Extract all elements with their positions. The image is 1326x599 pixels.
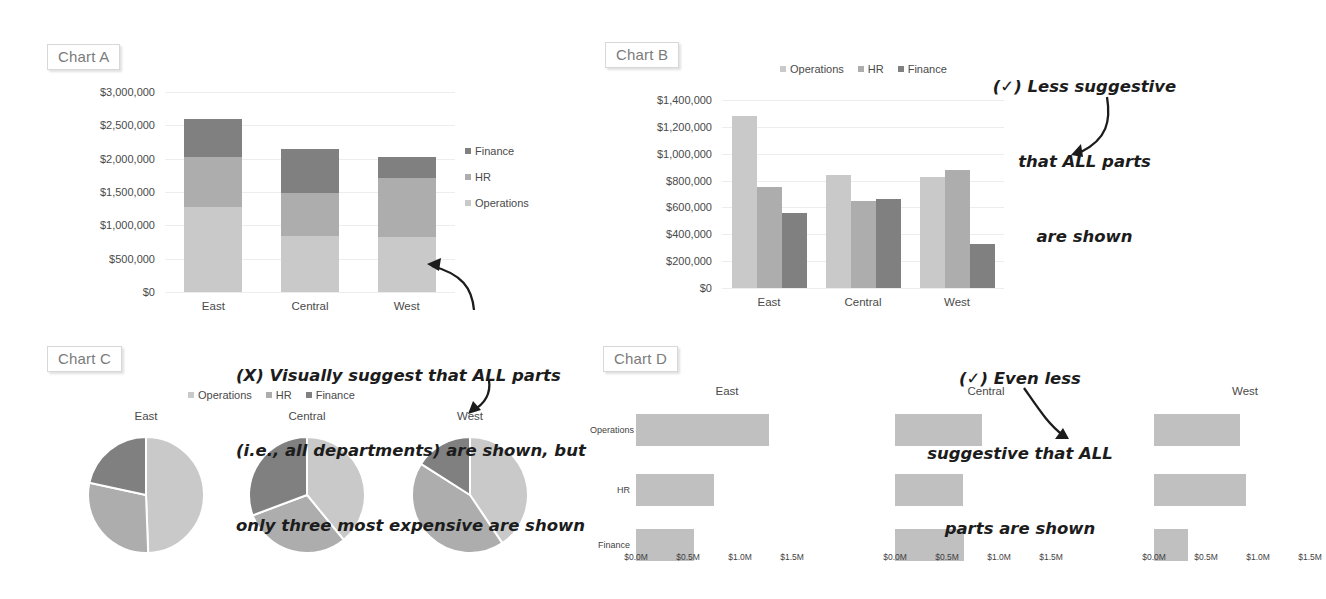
- chart-a-segment-operations: [281, 236, 339, 292]
- annotation-chart-a: (X) Visually suggest that ALL parts (i.e…: [236, 313, 586, 563]
- chart-b-xlabel-east: East: [724, 296, 814, 308]
- chart-d-xtick-east-1: $0.5M: [668, 552, 708, 562]
- annotation-chart-d-line-3: parts are shown: [900, 516, 1140, 541]
- chart-a-ytick: $1,500,000: [40, 186, 155, 198]
- legend-swatch-operations: [780, 66, 786, 72]
- chart-b-legend-item-operations: Operations: [780, 63, 844, 75]
- legend-label: Operations: [790, 63, 844, 75]
- chart-a-tag: Chart A: [47, 44, 120, 70]
- legend-swatch-operations: [465, 200, 471, 206]
- chart-d-xtick-west-0: $0.0M: [1134, 552, 1174, 562]
- chart-a-bar-central: [281, 149, 339, 292]
- chart-d-xtick-east-2: $1.0M: [720, 552, 760, 562]
- chart-d-tag: Chart D: [603, 346, 678, 372]
- legend-label: HR: [475, 171, 491, 183]
- chart-d-xtick-west-1: $0.5M: [1186, 552, 1226, 562]
- annotation-chart-a-arrow-up: [410, 236, 500, 316]
- chart-b-ytick: $400,000: [600, 228, 712, 240]
- annotation-chart-b-line-3: are shown: [962, 224, 1207, 249]
- chart-b-ytick: $1,400,000: [600, 94, 712, 106]
- chart-a-legend-item-operations: Operations: [465, 197, 529, 209]
- chart-a-legend-item-hr: HR: [465, 171, 529, 183]
- chart-c-slice-east-operations: [146, 437, 204, 553]
- annotation-chart-a-line-3: only three most expensive are shown: [236, 513, 586, 538]
- chart-b-ytick: $0: [600, 282, 712, 294]
- annotation-chart-a-arrow-down: [455, 378, 515, 426]
- legend-swatch-hr: [465, 174, 471, 180]
- chart-a-segment-hr: [184, 157, 242, 207]
- chart-d-row-label-hr: HR: [590, 485, 630, 495]
- chart-b-ytick: $800,000: [600, 175, 712, 187]
- legend-swatch-finance: [465, 148, 471, 154]
- chart-d-bar-west-operations: [1154, 414, 1240, 446]
- chart-d-row-label-operations: Operations: [590, 425, 630, 435]
- chart-b-bar-east-hr: [757, 187, 782, 288]
- chart-a-segment-hr: [281, 193, 339, 236]
- legend-label: HR: [868, 63, 884, 75]
- chart-d-bar-east-operations: [636, 414, 769, 446]
- chart-d-bar-west-hr: [1154, 474, 1246, 506]
- chart-b-bar-east-operations: [732, 116, 757, 288]
- chart-b-ytick: $1,200,000: [600, 121, 712, 133]
- chart-d-xtick-west-3: $1.5M: [1290, 552, 1326, 562]
- chart-a-xlabel-central: Central: [265, 300, 355, 312]
- chart-b-tag: Chart B: [605, 42, 679, 68]
- chart-d-xtick-east-3: $1.5M: [772, 552, 812, 562]
- annotation-chart-a-line-1: (X) Visually suggest that ALL parts: [236, 363, 586, 388]
- chart-b-xlabel-central: Central: [818, 296, 908, 308]
- chart-b-bar-central-operations: [826, 175, 851, 288]
- chart-b-ytick: $1,000,000: [600, 148, 712, 160]
- legend-swatch-operations: [188, 392, 194, 398]
- chart-a-segment-finance: [184, 119, 242, 156]
- chart-a-ytick: $1,000,000: [40, 219, 155, 231]
- chart-c-tag: Chart C: [47, 346, 122, 372]
- chart-b-bar-central-hr: [851, 201, 876, 288]
- chart-b-bar-east-finance: [782, 213, 807, 288]
- chart-a-xlabel-east: East: [168, 300, 258, 312]
- chart-b-bar-west-operations: [920, 177, 945, 288]
- chart-b-bar-central-finance: [876, 199, 901, 288]
- chart-b-xlabel-west: West: [912, 296, 1002, 308]
- chart-a-segment-finance: [378, 157, 436, 179]
- chart-a-segment-operations: [184, 207, 242, 292]
- chart-b-ytick: $600,000: [600, 201, 712, 213]
- chart-d-bar-east-hr: [636, 474, 714, 506]
- chart-a-bar-east: [184, 119, 242, 292]
- chart-a-segment-hr: [378, 178, 436, 237]
- chart-b-legend: OperationsHRFinance: [780, 63, 947, 75]
- legend-label: Operations: [475, 197, 529, 209]
- chart-d-row-label-finance: Finance: [590, 540, 630, 550]
- chart-b-legend-item-finance: Finance: [898, 63, 947, 75]
- chart-a-ytick: $500,000: [40, 253, 155, 265]
- chart-a-segment-finance: [281, 149, 339, 193]
- chart-a-ytick: $3,000,000: [40, 86, 155, 98]
- chart-a-legend-item-finance: Finance: [465, 145, 529, 157]
- legend-swatch-finance: [898, 66, 904, 72]
- chart-c-pie-east: [86, 435, 206, 555]
- chart-b-gridline: [722, 288, 1004, 289]
- chart-a-ytick: $2,000,000: [40, 153, 155, 165]
- annotation-chart-a-line-2: (i.e., all departments) are shown, but: [236, 438, 586, 463]
- chart-d-panel-title-west: West: [1190, 385, 1300, 397]
- chart-a-ytick: $0: [40, 286, 155, 298]
- chart-c-panel-title-east: East: [96, 410, 196, 422]
- chart-b-ytick: $200,000: [600, 255, 712, 267]
- legend-label: Finance: [908, 63, 947, 75]
- chart-a-legend: FinanceHROperations: [465, 145, 529, 223]
- legend-swatch-hr: [858, 66, 864, 72]
- chart-d-panel-title-east: East: [672, 385, 782, 397]
- chart-b-legend-item-hr: HR: [858, 63, 884, 75]
- chart-d-xtick-west-2: $1.0M: [1238, 552, 1278, 562]
- annotation-chart-d-arrow: [1008, 386, 1098, 456]
- chart-a-ytick: $2,500,000: [40, 119, 155, 131]
- chart-d-xtick-east-0: $0.0M: [616, 552, 656, 562]
- legend-label: Finance: [475, 145, 514, 157]
- annotation-chart-b-arrow: [1045, 95, 1155, 175]
